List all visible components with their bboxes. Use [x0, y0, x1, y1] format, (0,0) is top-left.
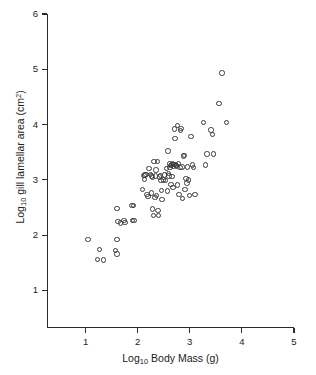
data-point	[122, 220, 127, 225]
data-point	[97, 247, 102, 252]
data-point	[211, 151, 216, 156]
scatter-points	[47, 14, 294, 328]
x-axis-tick	[293, 328, 294, 333]
data-point	[204, 151, 209, 156]
data-point	[131, 218, 136, 223]
x-axis-tick-label: 1	[78, 337, 94, 347]
data-point	[182, 187, 187, 192]
x-axis-tick	[241, 328, 242, 333]
data-point	[192, 192, 197, 197]
data-point	[188, 134, 193, 139]
data-point	[201, 120, 206, 125]
data-point	[180, 196, 185, 201]
data-point	[165, 188, 170, 193]
x-axis-tick-label: 4	[234, 337, 250, 347]
y-axis-title-suffix: )	[14, 90, 26, 94]
x-axis-tick	[85, 328, 86, 333]
y-axis-title-prefix: Log	[14, 206, 26, 224]
data-point	[85, 237, 90, 242]
data-point	[165, 148, 170, 153]
data-point	[172, 136, 177, 141]
x-axis-title-subscript: 10	[140, 357, 148, 366]
x-axis-title: Log10 Body Mass (g)	[47, 352, 294, 366]
x-axis-tick-label: 2	[130, 337, 146, 347]
data-point	[146, 166, 151, 171]
data-point	[186, 177, 191, 182]
y-axis-tick-label: 6	[24, 9, 38, 19]
data-point	[159, 188, 164, 193]
data-point	[95, 257, 100, 262]
y-axis-title-subscript: 10	[19, 198, 28, 206]
y-axis-title: Log10 gill lamellar area (cm2)	[14, 52, 28, 262]
data-point	[156, 213, 161, 218]
plot-area	[47, 14, 294, 328]
data-point	[149, 173, 154, 178]
x-axis-title-prefix: Log	[122, 352, 140, 364]
x-axis-title-suffix: Body Mass (g)	[148, 352, 219, 364]
x-axis-tick-label: 3	[182, 337, 198, 347]
data-point	[203, 162, 208, 167]
y-axis-tick-label: 1	[24, 285, 38, 295]
x-axis-tick-label: 5	[286, 337, 302, 347]
data-point	[153, 167, 158, 172]
y-axis-title-superscript: 2	[14, 94, 23, 98]
data-point	[224, 120, 229, 125]
data-point	[166, 173, 171, 178]
data-point	[159, 197, 164, 202]
data-point	[142, 177, 147, 182]
data-point	[114, 251, 119, 256]
data-point	[101, 257, 106, 262]
y-axis-title-mid: gill lamellar area (cm	[14, 98, 26, 198]
data-point	[114, 206, 119, 211]
data-point	[191, 165, 196, 170]
data-point	[179, 164, 184, 169]
data-point	[175, 182, 180, 187]
x-axis-tick	[137, 328, 138, 333]
x-axis-tick	[189, 328, 190, 333]
data-point	[178, 126, 183, 131]
data-point	[155, 159, 160, 164]
data-point	[216, 101, 221, 106]
data-point	[182, 153, 187, 158]
data-point	[114, 237, 119, 242]
data-point	[131, 203, 136, 208]
data-point	[219, 70, 224, 75]
data-point	[154, 193, 159, 198]
data-point	[210, 132, 215, 137]
gill-lamellar-area-scatter-figure: 12345612345 Log10 Body Mass (g) Log10 gi…	[0, 0, 316, 375]
